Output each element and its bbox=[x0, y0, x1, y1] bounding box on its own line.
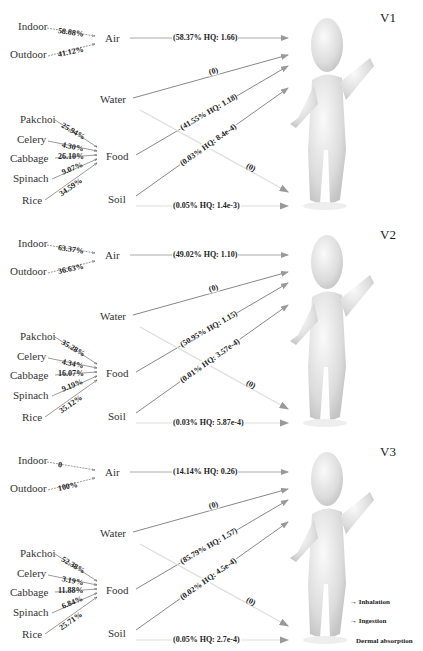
source-label-rice: Rice bbox=[22, 628, 42, 640]
flow-air-inhalation: (14.14% HQ: 0.26) bbox=[172, 467, 238, 476]
source-label-pakchoi: Pakchoi bbox=[20, 547, 55, 559]
source-label-outdoor: Outdoor bbox=[10, 265, 47, 277]
scenario-panel-v2: V2 Indoor Outdoor 63.37% 36.63% Pakchoi … bbox=[0, 217, 423, 434]
scenario-title: V1 bbox=[380, 10, 396, 26]
legend-inhalation: → Inhalation bbox=[350, 598, 390, 606]
flow-air-inhalation: (58.37% HQ: 1.66) bbox=[172, 33, 238, 42]
scenario-title: V3 bbox=[380, 444, 396, 460]
source-label-rice: Rice bbox=[22, 194, 42, 206]
source-label-indoor: Indoor bbox=[18, 454, 47, 466]
medium-food: Food bbox=[106, 367, 129, 379]
flow-air-inhalation: (49.02% HQ: 1.10) bbox=[172, 250, 238, 259]
source-label-cabbage: Cabbage bbox=[10, 586, 48, 598]
human-figure-icon bbox=[290, 452, 374, 644]
arrow-icon: → bbox=[350, 598, 357, 606]
arrow-icon: → bbox=[350, 617, 357, 625]
source-label-indoor: Indoor bbox=[18, 237, 47, 249]
source-label-pakchoi: Pakchoi bbox=[20, 113, 55, 125]
medium-water: Water bbox=[100, 93, 126, 105]
human-figure-icon bbox=[290, 18, 374, 210]
human-figure-icon bbox=[290, 235, 374, 427]
medium-soil: Soil bbox=[108, 193, 126, 205]
source-label-indoor: Indoor bbox=[18, 20, 47, 32]
flow-soil-dermal: (0.03% HQ: 5.87e-4) bbox=[172, 418, 245, 427]
source-label-outdoor: Outdoor bbox=[10, 48, 47, 60]
medium-food: Food bbox=[106, 150, 129, 162]
source-label-celery: Celery bbox=[17, 350, 46, 362]
medium-air: Air bbox=[105, 249, 120, 261]
source-label-celery: Celery bbox=[17, 133, 46, 145]
source-label-pakchoi: Pakchoi bbox=[20, 330, 55, 342]
source-label-rice: Rice bbox=[22, 411, 42, 423]
medium-water: Water bbox=[100, 527, 126, 539]
medium-soil: Soil bbox=[108, 410, 126, 422]
medium-air: Air bbox=[105, 32, 120, 44]
source-label-cabbage: Cabbage bbox=[10, 152, 48, 164]
medium-air: Air bbox=[105, 466, 120, 478]
source-label-celery: Celery bbox=[17, 567, 46, 579]
source-label-spinach: Spinach bbox=[13, 606, 48, 618]
legend-ingestion: → Ingestion bbox=[350, 617, 386, 625]
scenario-title: V2 bbox=[380, 227, 396, 243]
source-label-cabbage: Cabbage bbox=[10, 369, 48, 381]
source-label-spinach: Spinach bbox=[13, 389, 48, 401]
legend-dermal: Dermal absorption bbox=[356, 637, 413, 645]
source-label-outdoor: Outdoor bbox=[10, 482, 47, 494]
flow-soil-dermal: (0.05% HQ: 2.7e-4) bbox=[172, 635, 241, 644]
medium-soil: Soil bbox=[108, 627, 126, 639]
source-label-spinach: Spinach bbox=[13, 172, 48, 184]
medium-water: Water bbox=[100, 310, 126, 322]
flow-soil-dermal: (0.05% HQ: 1.4e-3) bbox=[172, 201, 241, 210]
scenario-panel-v1: V1 Indoor Outdoor 58.88% 41.12% Pakchoi … bbox=[0, 0, 423, 217]
medium-food: Food bbox=[106, 584, 129, 596]
